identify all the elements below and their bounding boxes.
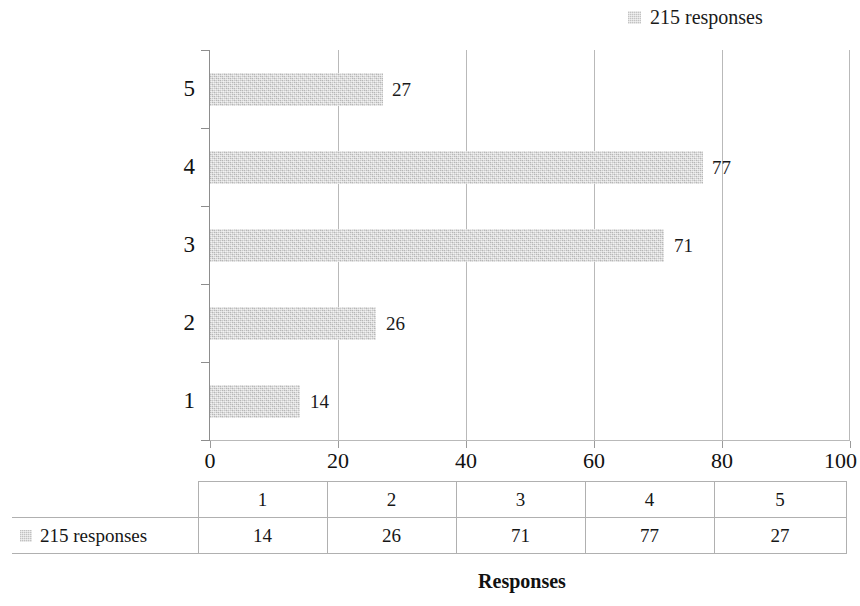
y-axis-tick (201, 362, 210, 363)
table-header-cell-1: 1 (198, 482, 327, 518)
table-row-label: 215 responses (40, 525, 147, 547)
y-axis-label-4: 4 (155, 150, 195, 183)
bar-value-3: 71 (674, 229, 693, 262)
x-axis-tick-label-60: 60 (574, 448, 614, 474)
y-axis-tick (201, 206, 210, 207)
table-row-label-cell: 215 responses (12, 518, 198, 554)
x-axis-tick (210, 441, 211, 448)
chart-data-table: 1 2 3 4 5 215 responses 14 26 71 77 27 (12, 481, 847, 554)
table-header-cell-4: 4 (585, 482, 714, 518)
y-axis-label-2: 2 (155, 306, 195, 339)
x-axis-tick-label-100: 100 (824, 448, 860, 474)
table-cell-3: 71 (456, 518, 585, 554)
y-axis-label-3: 3 (155, 228, 195, 261)
x-axis-tick-label-0: 0 (190, 448, 230, 474)
x-axis-tick-label-20: 20 (318, 448, 358, 474)
table-corner-cell (12, 482, 198, 518)
table-header-row: 1 2 3 4 5 (12, 482, 846, 518)
x-axis-tick-label-40: 40 (446, 448, 486, 474)
x-axis-title: Responses (198, 570, 846, 593)
x-axis-tick (722, 441, 723, 448)
bar-chart-plot: 5 4 3 2 1 27 77 71 26 14 0 20 40 60 80 1… (0, 0, 860, 470)
y-axis-label-1: 1 (155, 384, 195, 417)
gridline-80 (722, 50, 723, 440)
bar-value-5: 27 (392, 73, 411, 106)
series-swatch-icon (20, 530, 32, 542)
bar-category-4[interactable] (210, 151, 703, 184)
y-axis-tick (201, 128, 210, 129)
x-axis-tick (466, 441, 467, 448)
bar-category-2[interactable] (210, 307, 376, 340)
table-cell-4: 77 (585, 518, 714, 554)
table-header-cell-2: 2 (327, 482, 456, 518)
y-axis-tick (201, 50, 210, 51)
bar-category-5[interactable] (210, 73, 383, 106)
plot-area: 27 77 71 26 14 (210, 50, 850, 440)
table-row: 215 responses 14 26 71 77 27 (12, 518, 846, 554)
x-axis-line (210, 440, 850, 441)
bar-value-1: 14 (310, 385, 329, 418)
bar-category-1[interactable] (210, 385, 300, 418)
table-header-cell-5: 5 (714, 482, 846, 518)
table-header-cell-3: 3 (456, 482, 585, 518)
x-axis-tick (338, 441, 339, 448)
bar-value-2: 26 (386, 307, 405, 340)
table-cell-1: 14 (198, 518, 327, 554)
x-axis-tick (594, 441, 595, 448)
x-axis-tick (850, 441, 851, 448)
bar-category-3[interactable] (210, 229, 664, 262)
bar-value-4: 77 (712, 151, 731, 184)
y-axis-tick (201, 284, 210, 285)
y-axis-tick (201, 440, 210, 441)
table-cell-5: 27 (714, 518, 846, 554)
y-axis-label-5: 5 (155, 72, 195, 105)
gridline-100 (849, 50, 850, 440)
x-axis-tick-label-80: 80 (702, 448, 742, 474)
table-cell-2: 26 (327, 518, 456, 554)
